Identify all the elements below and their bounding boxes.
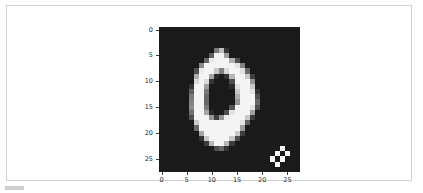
matplotlib-figure: 0510152025 0510152025 [127,16,317,186]
x-tick-mark [287,172,288,175]
pixel [295,167,300,172]
x-tick-label: 0 [159,177,163,184]
digit-pixel-grid [159,27,300,172]
screenshot-root: 0510152025 0510152025 [0,0,423,193]
window-chrome-stub [5,186,24,190]
x-tick-mark [162,172,163,175]
x-tick-mark [187,172,188,175]
x-tick-label: 20 [258,177,266,184]
y-tick-label: 10 [133,78,153,85]
y-tick-label: 0 [133,26,153,33]
x-tick-label: 10 [208,177,216,184]
image-axes [159,27,300,172]
notebook-output-panel: 0510152025 0510152025 [6,5,412,181]
y-tick-label: 20 [133,130,153,137]
y-tick-label: 15 [133,104,153,111]
x-tick-label: 25 [283,177,291,184]
y-tick-label: 5 [133,52,153,59]
x-tick-mark [237,172,238,175]
x-tick-mark [262,172,263,175]
x-tick-label: 5 [185,177,189,184]
x-tick-mark [212,172,213,175]
y-tick-label: 25 [133,156,153,163]
x-tick-label: 15 [233,177,241,184]
